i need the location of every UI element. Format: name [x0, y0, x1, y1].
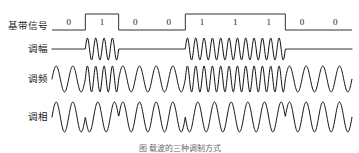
row-pm: 调相: [28, 102, 352, 132]
bit-digit: 0: [300, 17, 305, 27]
row-label-am: 调幅: [28, 43, 48, 54]
bit-digit: 0: [66, 17, 71, 27]
bit-digit: 1: [233, 17, 238, 27]
row-label-fm: 调频: [28, 73, 48, 84]
modulation-diagram-svg: 基带信号 010011100 调幅 调频 调相 图 载波的三种调制方式: [0, 0, 359, 153]
figure-caption: 图 载波的三种调制方式: [139, 143, 221, 153]
row-label-baseband: 基带信号: [8, 20, 48, 31]
am-waveform: [52, 38, 352, 60]
bit-digit: 0: [166, 17, 171, 27]
row-fm: 调频: [28, 66, 352, 92]
bit-digit: 0: [333, 17, 338, 27]
row-baseband: 基带信号 010011100: [8, 14, 352, 31]
bit-digit: 1: [266, 17, 271, 27]
row-am: 调幅: [28, 38, 352, 60]
bit-digit-group: 010011100: [66, 17, 338, 27]
bit-digit: 1: [200, 17, 205, 27]
modulation-figure: 基带信号 010011100 调幅 调频 调相 图 载波的三种调制方式: [0, 0, 359, 153]
bit-digit: 1: [100, 17, 105, 27]
row-label-pm: 调相: [28, 111, 48, 122]
fm-waveform: [52, 66, 352, 92]
pm-waveform: [52, 102, 352, 132]
bit-digit: 0: [133, 17, 138, 27]
